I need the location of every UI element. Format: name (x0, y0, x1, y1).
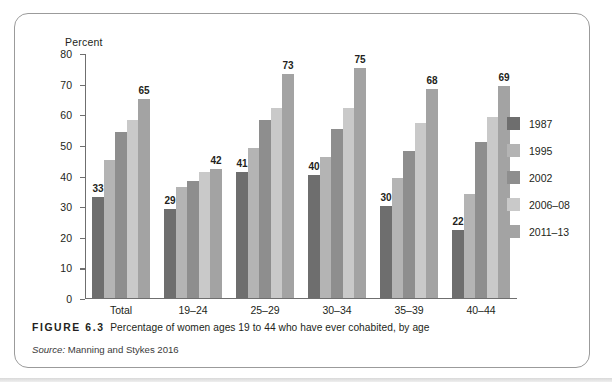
bar-fill (308, 175, 320, 298)
legend-swatch (507, 198, 520, 211)
y-tick: 50 (80, 146, 85, 147)
y-tick: 30 (80, 207, 85, 208)
figure-caption: FIGURE 6.3 Percentage of women ages 19 t… (32, 321, 572, 335)
y-tick: 60 (80, 115, 85, 116)
bar-group: 294219–24 (164, 53, 222, 298)
bar-group: 306835–39 (380, 53, 438, 298)
legend-label: 1995 (529, 145, 552, 157)
bar-fill (354, 68, 366, 298)
y-tick-label: 20 (60, 232, 72, 244)
source-text: Manning and Stykes 2016 (68, 344, 179, 355)
y-tick: 10 (80, 268, 85, 269)
bar-fill (487, 117, 499, 298)
x-axis-category-label: 19–24 (178, 304, 207, 316)
figure-page: Percent 01020304050607080 3365Total29421… (0, 0, 612, 389)
chart-axes: 01020304050607080 3365Total294219–244173… (85, 54, 517, 299)
bar-fill (236, 172, 248, 298)
legend-label: 2002 (529, 172, 552, 184)
legend-item: 2006–08 (507, 191, 570, 218)
bar-value-label: 68 (427, 75, 438, 86)
bar-fill (331, 129, 343, 297)
legend-swatch (507, 171, 520, 184)
bar-group-bars: 4173 (236, 53, 294, 298)
source-label: Source: (32, 344, 65, 355)
bar-fill (248, 148, 260, 298)
bar-group: 417325–29 (236, 53, 294, 298)
x-axis-category-label: 25–29 (250, 304, 279, 316)
bar-fill (104, 160, 116, 298)
legend-label: 1987 (529, 118, 552, 130)
y-tick-label: 50 (60, 140, 72, 152)
bar-fill (320, 157, 332, 298)
bar-group-bars: 3365 (92, 53, 150, 298)
bar-value-label: 42 (211, 155, 222, 166)
bar-fill (380, 206, 392, 298)
y-tick-label: 80 (60, 48, 72, 60)
bar-value-label: 73 (283, 60, 294, 71)
y-tick-label: 70 (60, 79, 72, 91)
legend-swatch (507, 225, 520, 238)
bar-fill (392, 178, 404, 297)
bar-fill (403, 151, 415, 298)
bar-group: 3365Total (92, 53, 150, 298)
legend-swatch (507, 117, 520, 130)
legend-item: 2011–13 (507, 218, 570, 245)
bar-fill (271, 108, 283, 298)
bar-value-label: 65 (139, 85, 150, 96)
figure-source: Source: Manning and Stykes 2016 (32, 344, 179, 355)
figure-number: FIGURE 6.3 (32, 322, 105, 333)
legend-item: 1995 (507, 137, 570, 164)
x-axis-category-label: 30–34 (322, 304, 351, 316)
y-tick: 80 (80, 54, 85, 55)
y-axis-title: Percent (65, 36, 103, 48)
bar-value-label: 40 (308, 161, 319, 172)
bar-fill (187, 181, 199, 297)
y-tick-label: 40 (60, 171, 72, 183)
chart-legend: 1987199520022006–082011–13 (507, 110, 570, 245)
y-tick: 70 (80, 85, 85, 86)
bar-group-bars: 2269 (452, 53, 510, 298)
y-tick: 0 (80, 299, 85, 300)
bar-fill (176, 187, 188, 297)
x-axis-category-label: 35–39 (394, 304, 423, 316)
y-tick-label: 0 (66, 293, 72, 305)
y-tick: 20 (80, 238, 85, 239)
bar-fill (164, 209, 176, 298)
figure-frame: Percent 01020304050607080 3365Total29421… (14, 13, 590, 368)
x-axis-category-label: 40–44 (466, 304, 495, 316)
bar-value-label: 30 (380, 192, 391, 203)
bar-fill (210, 169, 222, 298)
bar-fill (282, 74, 294, 298)
figure-caption-text: Percentage of women ages 19 to 44 who ha… (110, 322, 429, 333)
bar-fill (475, 142, 487, 298)
bar-value-label: 33 (92, 183, 103, 194)
legend-item: 2002 (507, 164, 570, 191)
y-tick: 40 (80, 177, 85, 178)
bar-group-bars: 3068 (380, 53, 438, 298)
page-bottom-rule (0, 378, 612, 382)
x-axis-category-label: Total (110, 304, 132, 316)
bar-fill (452, 230, 464, 297)
legend-item: 1987 (507, 110, 570, 137)
bar-value-label: 41 (236, 158, 247, 169)
bar-fill (138, 99, 150, 298)
bar-group: 226940–44 (452, 53, 510, 298)
bar-value-label: 22 (452, 216, 463, 227)
y-tick-label: 10 (60, 262, 72, 274)
bar-fill (127, 120, 139, 298)
bar-value-label: 69 (499, 72, 510, 83)
bar-group-bars: 2942 (164, 53, 222, 298)
bar-fill (426, 89, 438, 297)
bar-value-label: 29 (164, 195, 175, 206)
bar-group: 407530–34 (308, 53, 366, 298)
bar-fill (415, 123, 427, 298)
legend-swatch (507, 144, 520, 157)
y-axis-line (85, 54, 86, 299)
bar-value-label: 75 (355, 54, 366, 65)
legend-label: 2006–08 (529, 199, 570, 211)
bar-fill (115, 132, 127, 297)
bar-fill (92, 197, 104, 298)
bar-fill (199, 172, 211, 298)
x-axis-line (85, 298, 517, 299)
bar-fill (464, 194, 476, 298)
